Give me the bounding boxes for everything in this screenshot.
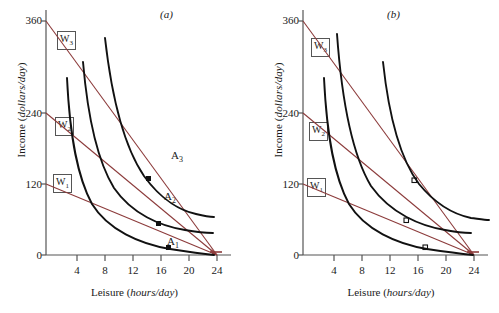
panel-b: Income (dollars/day) Leisure (hours/day)…: [249, 0, 499, 313]
indifference-curve-3: [105, 38, 214, 217]
tangency-point-a1: [166, 245, 171, 250]
indifference-curves-a: [67, 38, 214, 255]
indifference-curve-1: [324, 78, 473, 255]
indifference-curve-1: [67, 78, 214, 255]
indifference-curve-3: [383, 62, 489, 220]
tangency-point-a2: [156, 221, 161, 226]
indifference-curve-2: [337, 34, 471, 233]
panel-a: Income (dollars/day) Leisure (hours/day)…: [0, 0, 249, 313]
tangency-point-a3: [146, 176, 151, 181]
x-axis-title: Leisure (hours/day): [287, 286, 495, 298]
labor-supply-figure: Income (dollars/day) Leisure (hours/day)…: [0, 0, 499, 313]
plot-area-b: [249, 0, 499, 280]
plot-area-a: [0, 0, 249, 280]
indifference-curves-b: [324, 34, 489, 255]
x-axis-title: Leisure (hours/day): [30, 286, 239, 298]
